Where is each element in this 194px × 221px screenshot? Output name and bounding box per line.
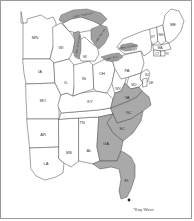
state-label-sc: SC xyxy=(119,126,125,131)
state-label-ms: MS xyxy=(66,150,72,155)
state-label-md: MD xyxy=(131,83,137,87)
state-label-mo: MO xyxy=(40,98,47,103)
state-label-nj: NJ xyxy=(145,73,149,77)
state-label-ct: CT xyxy=(155,52,160,56)
state-label-in: IN xyxy=(82,76,86,81)
state-label-vt: VT xyxy=(151,35,155,39)
state-label-ia: IA xyxy=(38,69,42,74)
state-shape-ms[interactable] xyxy=(59,118,79,167)
state-label-ga: GA xyxy=(103,141,109,146)
state-label-al: AL xyxy=(86,148,92,153)
state-label-pa: PA xyxy=(124,68,129,73)
key-west-marker-icon xyxy=(128,199,131,202)
key-west-label: *Key West xyxy=(133,207,154,212)
state-label-nh: NH xyxy=(159,33,164,37)
state-shape-ny[interactable] xyxy=(117,29,152,56)
state-label-oh: OH xyxy=(99,71,105,76)
state-label-ky: KY xyxy=(87,99,93,104)
state-label-ma: MA xyxy=(157,46,163,50)
state-label-mn: MN xyxy=(32,35,38,40)
state-label-wv: WV xyxy=(115,87,121,91)
state-label-mi: MI xyxy=(83,55,87,59)
state-label-nc: NC xyxy=(126,110,132,115)
state-shape-mn[interactable] xyxy=(21,12,56,59)
state-label-de: DE xyxy=(149,81,154,85)
state-label-ar: AR xyxy=(40,132,46,137)
state-label-va: VA xyxy=(124,95,129,100)
map-container: MN IA MO AR LA MS AL TN KY WI IL IN OH M… xyxy=(0,0,192,219)
state-label-fl: FL xyxy=(125,178,131,183)
us-map[interactable]: MN IA MO AR LA MS AL TN KY WI IL IN OH M… xyxy=(1,1,192,219)
state-label-ri: RI xyxy=(165,52,168,56)
key-west-annotation: *Key West xyxy=(128,199,155,212)
state-label-me: ME xyxy=(170,22,176,27)
state-label-tn: TN xyxy=(79,120,85,125)
state-label-wi: WI xyxy=(58,45,63,50)
state-shape-de[interactable] xyxy=(143,78,147,87)
state-label-la: LA xyxy=(43,161,48,166)
